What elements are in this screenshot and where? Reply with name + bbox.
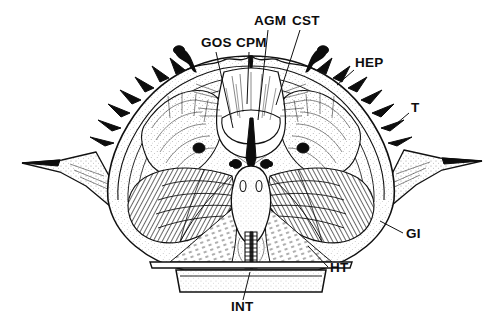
label-int: INT: [231, 299, 254, 314]
lateral-spine-right: [382, 150, 482, 205]
label-gi: GI: [406, 226, 421, 241]
label-t: T: [411, 100, 420, 115]
eye-spot-left: [193, 143, 205, 153]
lateral-spine-left: [22, 152, 120, 206]
diagram-canvas: GOS CPM AGM CST HEP T GI HT INT: [0, 0, 503, 324]
label-hep: HEP: [355, 55, 383, 70]
label-agm: AGM: [254, 13, 286, 28]
label-ht: HT: [330, 260, 349, 275]
label-cpm: CPM: [236, 35, 267, 50]
anatomical-figure: GOS CPM AGM CST HEP T GI HT INT: [0, 0, 503, 324]
label-gos: GOS: [201, 35, 232, 50]
leader-T: [396, 113, 409, 124]
label-cst: CST: [292, 13, 320, 28]
sternum-plate: [150, 262, 352, 292]
eye-spot-right: [297, 143, 309, 153]
